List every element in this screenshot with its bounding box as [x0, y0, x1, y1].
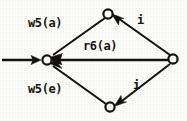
- edge-right-bottom-arrowhead: [114, 96, 127, 107]
- node-right[interactable]: [168, 54, 177, 63]
- edge-label-i-top: i: [137, 14, 144, 26]
- edge-entry-arrow: [2, 55, 41, 64]
- node-left[interactable]: [42, 55, 51, 64]
- edge-label-w5e: w5(e): [28, 83, 62, 95]
- edge-right-bottom: [114, 64, 170, 107]
- edge-label-i-bottom: i: [133, 79, 140, 91]
- edge-right-left: [51, 55, 168, 65]
- edge-label-r6a: r6(a): [83, 40, 117, 52]
- diagram-canvas: w5(a) r6(a) w5(e) i i: [0, 0, 187, 121]
- node-top[interactable]: [103, 9, 112, 18]
- node-bottom[interactable]: [105, 102, 114, 111]
- edge-bottom-left: [50, 58, 107, 105]
- edge-label-w5a: w5(a): [28, 17, 62, 29]
- edge-right-bottom-line: [118, 64, 170, 104]
